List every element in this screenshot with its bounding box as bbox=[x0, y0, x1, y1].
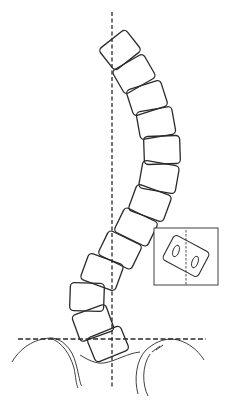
vertebra-10 bbox=[80, 253, 124, 292]
vertebral-column bbox=[70, 29, 181, 363]
vertebra-11 bbox=[70, 282, 105, 311]
vertebra-6 bbox=[138, 160, 179, 194]
vertebra-4 bbox=[136, 106, 176, 140]
right-iliac-crest bbox=[136, 339, 204, 394]
pelvis-outline bbox=[12, 338, 204, 396]
scoliosis-diagram bbox=[0, 0, 227, 405]
vertebra-5 bbox=[144, 135, 181, 164]
spine-illustration bbox=[0, 0, 227, 405]
left-iliac-inner bbox=[50, 338, 78, 388]
right-iliac-mark bbox=[152, 345, 163, 352]
left-iliac-crest bbox=[12, 338, 82, 386]
rotation-inset bbox=[154, 228, 218, 285]
right-iliac-inner bbox=[144, 354, 150, 396]
vertebra-1 bbox=[98, 29, 141, 71]
